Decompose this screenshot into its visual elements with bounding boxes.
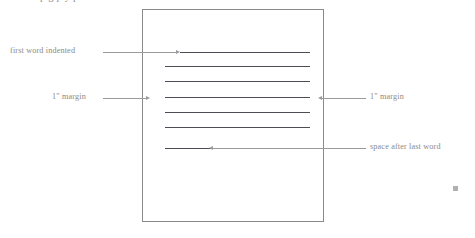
annotation-arrowhead-space-after-last-word <box>209 146 213 150</box>
annotation-arrowhead-first-word-indented <box>176 50 180 54</box>
annotation-label-space-after-last-word: space after last word <box>370 142 441 152</box>
annotation-leader-space-after-last-word <box>213 148 366 149</box>
manuscript-text-line <box>180 52 310 53</box>
annotation-leader-left-margin <box>103 98 146 99</box>
annotation-label-right-margin: 1" margin <box>370 92 404 102</box>
annotation-arrowhead-left-margin <box>146 96 150 100</box>
manuscript-text-line <box>165 97 310 98</box>
manuscript-text-line <box>165 66 310 67</box>
cropped-caption-text: p g p y p <box>0 0 79 2</box>
manuscript-text-line <box>165 112 310 113</box>
annotation-label-first-word-indented: first word indented <box>10 46 75 56</box>
manuscript-text-line <box>165 148 212 149</box>
manuscript-page-outline <box>142 9 324 222</box>
annotation-arrowhead-right-margin <box>318 96 322 100</box>
figure-canvas: p g p y p first word indented1" margin1"… <box>0 0 475 238</box>
manuscript-text-line <box>165 81 310 82</box>
manuscript-text-line <box>165 127 310 128</box>
annotation-label-left-margin: 1" margin <box>52 92 86 102</box>
annotation-leader-first-word-indented <box>103 52 176 53</box>
annotation-leader-right-margin <box>322 98 366 99</box>
stray-mark-icon <box>453 186 458 191</box>
cropped-caption-sliver: p g p y p <box>0 0 475 5</box>
